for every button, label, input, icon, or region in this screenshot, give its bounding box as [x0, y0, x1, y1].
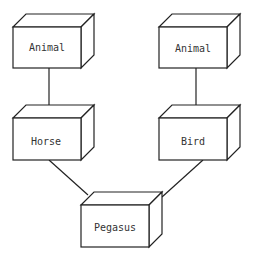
edge-pegasus-horse — [49, 160, 88, 195]
node-label-bird: Bird — [181, 136, 205, 147]
node-horse — [13, 105, 94, 160]
node-label-animal-left: Animal — [29, 42, 65, 53]
node-label-pegasus: Pegasus — [94, 222, 136, 233]
inheritance-diagram: Animal Animal Horse Bird Pegasus — [0, 0, 254, 260]
node-label-horse: Horse — [31, 136, 61, 147]
node-animal-left — [13, 14, 94, 68]
node-label-animal-right: Animal — [175, 43, 211, 54]
edge-pegasus-bird — [162, 160, 203, 197]
node-pegasus — [81, 192, 162, 247]
diagram-svg: Animal Animal Horse Bird Pegasus — [0, 0, 254, 260]
node-animal-right — [159, 14, 240, 68]
node-bird — [159, 105, 240, 160]
